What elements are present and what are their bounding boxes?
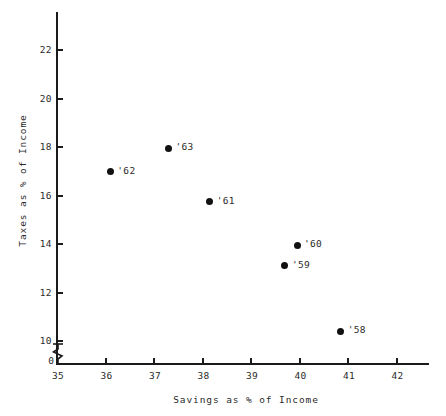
y-tick-label-text: 12 [12, 287, 52, 298]
x-tick-label: 40 [286, 370, 316, 381]
y-tick-label: 12 [8, 287, 52, 299]
y-tick-mark [57, 146, 63, 148]
y-tick-mark [57, 49, 63, 51]
scatter-plot-figure: 10121416182022 3536373839404142 0 '63'62… [0, 0, 446, 416]
data-point-label: '58 [348, 324, 366, 335]
x-tick-label: 41 [334, 370, 364, 381]
x-tick-label: 35 [43, 370, 73, 381]
y-tick-label-text: 22 [12, 44, 52, 55]
x-tick-label: 36 [92, 370, 122, 381]
data-point-label: '63 [176, 141, 194, 152]
x-tick-mark [347, 358, 349, 364]
y-tick-mark [57, 98, 63, 100]
x-tick-label: 37 [140, 370, 170, 381]
y-tick-label: 14 [8, 238, 52, 250]
data-point-marker [337, 328, 344, 335]
x-axis-title: Savings as % of Income [0, 394, 446, 405]
y-tick-label: 22 [8, 44, 52, 56]
x-tick-label: 38 [189, 370, 219, 381]
y-tick-label-text: 10 [12, 335, 52, 346]
data-point-marker [107, 168, 114, 175]
x-tick-mark [202, 358, 204, 364]
y-axis-origin-label: 0 [36, 355, 54, 366]
x-tick-mark [105, 358, 107, 364]
data-point-marker [165, 145, 172, 152]
y-axis-title: Taxes as % of Income [17, 86, 28, 276]
y-tick-mark [57, 292, 63, 294]
y-tick-label: 20 [8, 93, 52, 105]
x-tick-mark [299, 358, 301, 364]
y-tick-label: 10 [8, 335, 52, 347]
y-tick-label: 18 [8, 141, 52, 153]
data-point-marker [206, 198, 213, 205]
data-point-label: '61 [217, 195, 235, 206]
x-tick-mark [153, 358, 155, 364]
y-axis-line [56, 12, 58, 365]
y-tick-mark [57, 195, 63, 197]
x-tick-label: 39 [237, 370, 267, 381]
y-tick-mark [57, 243, 63, 245]
x-tick-mark [250, 358, 252, 364]
data-point-label: '59 [292, 259, 310, 270]
y-tick-label: 16 [8, 190, 52, 202]
data-point-label: '60 [304, 238, 322, 249]
x-axis-line [56, 363, 429, 365]
data-point-marker [281, 262, 288, 269]
x-tick-mark [396, 358, 398, 364]
data-point-marker [294, 242, 301, 249]
x-tick-label: 42 [383, 370, 413, 381]
data-point-label: '62 [117, 165, 135, 176]
